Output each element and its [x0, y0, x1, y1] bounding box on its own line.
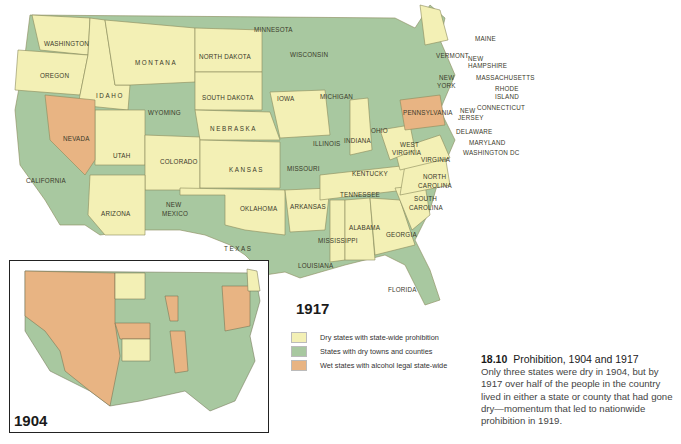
- label-missouri: MISSOURI: [287, 165, 320, 172]
- label-rhode-island-1: RHODE: [495, 85, 519, 92]
- label-mississippi: MISSISSIPPI: [318, 237, 358, 244]
- label-vermont: VERMONT: [436, 52, 469, 59]
- label-wisconsin: WISCONSIN: [290, 51, 328, 58]
- label-new-jersey-2: JERSEY: [458, 114, 484, 121]
- label-new-hampshire-2: HAMPSHIRE: [468, 62, 507, 69]
- legend-item-dry-towns: States with dry towns and counties: [291, 344, 447, 358]
- label-south-carolina-1: SOUTH: [414, 195, 437, 202]
- label-indiana: INDIANA: [344, 137, 372, 144]
- legend-swatch-wet: [291, 360, 307, 371]
- label-colorado: COLORADO: [160, 158, 198, 165]
- figure-caption: 18.10 Prohibition, 1904 and 1917 Only th…: [481, 353, 681, 427]
- legend-swatch-dry-towns: [291, 346, 307, 357]
- label-florida: FLORIDA: [388, 286, 417, 293]
- label-new-mexico-1: NEW: [166, 201, 181, 208]
- label-virginia: VIRGINIA: [421, 156, 451, 163]
- caption-title: 18.10 Prohibition, 1904 and 1917: [481, 353, 681, 365]
- label-idaho: IDAHO: [96, 92, 124, 99]
- map-1904: [10, 261, 268, 432]
- label-washington-dc: WASHINGTON DC: [463, 149, 520, 156]
- label-north-carolina-1: NORTH: [423, 173, 447, 180]
- label-arkansas: ARKANSAS: [290, 203, 326, 210]
- main-year-label: 1917: [296, 300, 329, 317]
- label-maine: MAINE: [475, 35, 496, 42]
- label-west-virginia-2: VIRGINIA: [392, 149, 422, 156]
- label-texas: TEXAS: [224, 245, 253, 252]
- label-arizona: ARIZONA: [101, 210, 131, 217]
- label-pennsylvania: PENNSYLVANIA: [403, 109, 453, 116]
- state-mississippi: [330, 200, 345, 262]
- label-south-dakota: SOUTH DAKOTA: [202, 94, 254, 101]
- caption-number: 18.10: [481, 353, 507, 365]
- label-minnesota: MINNESOTA: [254, 26, 293, 33]
- label-new-york-2: YORK: [437, 82, 456, 89]
- label-utah: UTAH: [113, 152, 131, 159]
- label-south-carolina-2: CAROLINA: [409, 204, 443, 211]
- label-new-jersey-1: NEW: [460, 107, 475, 114]
- label-louisiana: LOUISIANA: [298, 262, 334, 269]
- label-california: CALIFORNIA: [26, 177, 66, 184]
- inset-year-label: 1904: [14, 412, 47, 429]
- label-new-york-1: NEW: [439, 74, 454, 81]
- label-tennessee: TENNESSEE: [340, 191, 380, 198]
- label-kansas: KANSAS: [229, 166, 264, 173]
- label-montana: MONTANA: [135, 59, 177, 66]
- legend: Dry states with state-wide prohibition S…: [291, 330, 447, 372]
- legend-label-wet: Wet states with alcohol legal state-wide: [320, 361, 447, 370]
- state-washington: [32, 15, 90, 55]
- state-south-dakota: [195, 72, 262, 110]
- label-wyoming: WYOMING: [148, 109, 181, 116]
- state-montana: [105, 20, 195, 85]
- state-maine: [420, 5, 448, 45]
- label-new-hampshire-1: NEW: [468, 55, 483, 62]
- caption-body: Only three states were dry in 1904, but …: [481, 366, 681, 427]
- label-illinois: ILLINOIS: [313, 140, 341, 147]
- label-kentucky: KENTUCKY: [352, 170, 388, 177]
- label-oklahoma: OKLAHOMA: [240, 205, 278, 212]
- legend-label-dry: Dry states with state-wide prohibition: [320, 333, 439, 342]
- label-connecticut: CONNECTICUT: [477, 104, 525, 111]
- label-maryland: MARYLAND: [469, 139, 506, 146]
- label-alabama: ALABAMA: [349, 224, 381, 231]
- label-michigan: MICHIGAN: [320, 93, 353, 100]
- state-north-dakota: [195, 28, 262, 72]
- label-nevada: NEVADA: [63, 135, 90, 142]
- legend-label-dry-towns: States with dry towns and counties: [320, 347, 432, 356]
- label-ohio: OHIO: [371, 127, 388, 134]
- legend-item-dry: Dry states with state-wide prohibition: [291, 330, 447, 344]
- label-massachusetts: MASSACHUSETTS: [476, 74, 535, 81]
- label-north-dakota: NORTH DAKOTA: [199, 53, 251, 60]
- label-georgia: GEORGIA: [386, 231, 417, 238]
- label-north-carolina-2: CAROLINA: [418, 182, 452, 189]
- label-washington: WASHINGTON: [44, 40, 89, 47]
- state-kansas: [200, 140, 280, 188]
- label-nebraska: NEBRASKA: [210, 125, 257, 132]
- state-indiana: [350, 98, 372, 155]
- caption-title-text: Prohibition, 1904 and 1917: [513, 353, 639, 365]
- label-iowa: IOWA: [277, 95, 295, 102]
- legend-swatch-dry: [291, 332, 307, 343]
- label-new-mexico-2: MEXICO: [162, 210, 188, 217]
- legend-item-wet: Wet states with alcohol legal state-wide: [291, 358, 447, 372]
- map-1904-inset: 1904: [9, 260, 269, 433]
- label-west-virginia-1: WEST: [400, 141, 419, 148]
- label-rhode-island-2: ISLAND: [495, 93, 519, 100]
- label-delaware: DELAWARE: [456, 128, 492, 135]
- label-oregon: OREGON: [40, 72, 69, 79]
